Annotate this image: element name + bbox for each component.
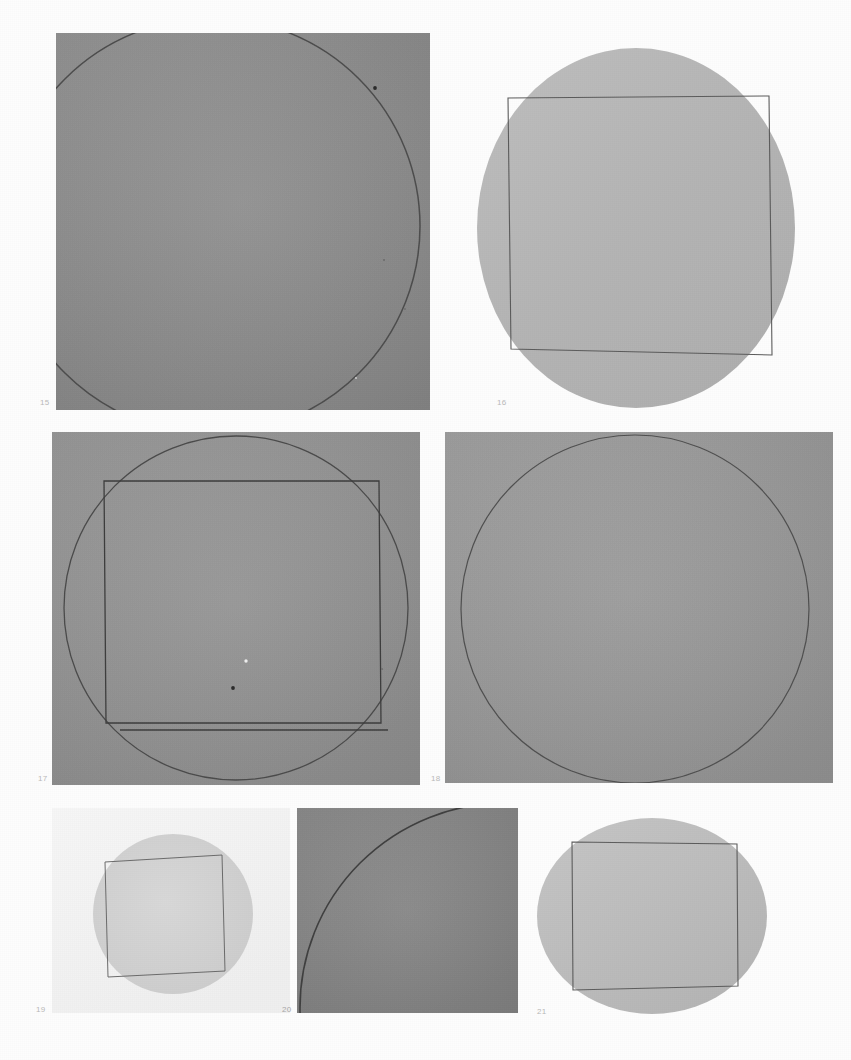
figure-15-speck-a bbox=[373, 86, 377, 90]
figure-20-vignette bbox=[297, 808, 518, 1013]
figure-16 bbox=[470, 40, 810, 418]
figure-17-vignette bbox=[52, 432, 420, 785]
figure-20 bbox=[297, 808, 518, 1013]
figure-15-vignette bbox=[56, 33, 430, 410]
figure-20-caption: 20 bbox=[282, 1006, 292, 1014]
figure-16-caption: 16 bbox=[497, 399, 507, 407]
figure-15-speck-b bbox=[383, 259, 385, 261]
figure-18-vignette bbox=[445, 432, 833, 783]
figure-15-artwork bbox=[56, 33, 430, 410]
figure-19 bbox=[52, 808, 290, 1013]
figure-15-speck-d bbox=[355, 377, 357, 379]
figure-17-speck-a bbox=[231, 686, 235, 690]
figure-15-caption: 15 bbox=[40, 399, 50, 407]
figure-17-speck-c bbox=[381, 668, 383, 670]
figure-18-caption: 18 bbox=[431, 775, 441, 783]
figure-19-artwork bbox=[52, 808, 290, 1013]
figure-21-caption: 21 bbox=[537, 1008, 547, 1016]
figure-18 bbox=[445, 432, 833, 783]
figure-17 bbox=[52, 432, 420, 785]
figure-16-artwork bbox=[470, 40, 810, 418]
figure-18-artwork bbox=[445, 432, 833, 783]
figure-15-speck-c bbox=[404, 308, 406, 310]
figure-15 bbox=[56, 33, 430, 410]
figure-17-speck-b bbox=[244, 659, 247, 662]
figure-21-artwork bbox=[530, 812, 775, 1022]
figure-21 bbox=[530, 812, 775, 1022]
figure-19-caption: 19 bbox=[36, 1006, 46, 1014]
figure-17-caption: 17 bbox=[38, 775, 48, 783]
plate-sheet: 15 16 bbox=[0, 0, 851, 1060]
figure-17-artwork bbox=[52, 432, 420, 785]
figure-20-artwork bbox=[297, 808, 518, 1013]
